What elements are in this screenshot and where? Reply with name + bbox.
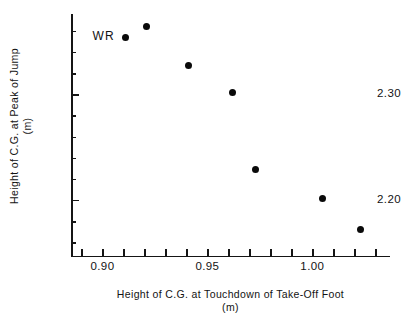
data-point-4	[252, 166, 259, 173]
x-axis-minor-tick	[144, 249, 145, 256]
y-axis-minor-tick	[71, 31, 76, 32]
y-axis-tick-label: 2.30	[355, 87, 401, 99]
y-axis-minor-tick	[71, 137, 76, 138]
y-axis-tick-label: 2.20	[355, 193, 401, 205]
y-axis-major-tick	[71, 200, 79, 201]
x-axis-minor-tick	[228, 249, 229, 256]
point-annotation-wr: WR	[93, 29, 115, 43]
x-axis-minor-tick	[249, 249, 250, 256]
y-axis-title: Height of C.G. at Peak of Jump (m)	[8, 1, 34, 251]
x-axis-major-tick	[102, 249, 103, 256]
x-axis-minor-tick	[270, 249, 271, 256]
x-axis-minor-tick	[354, 249, 355, 256]
x-axis-minor-tick	[333, 249, 334, 256]
data-point-6	[357, 226, 364, 233]
x-axis-minor-tick	[291, 249, 292, 256]
y-axis-minor-tick	[71, 73, 76, 74]
y-axis-minor-tick	[71, 242, 76, 243]
data-point-5	[319, 195, 326, 202]
x-axis-minor-tick	[81, 249, 82, 256]
y-axis-title-text: Height of C.G. at Peak of Jump	[8, 48, 20, 204]
data-point-1	[143, 23, 150, 30]
data-point-0	[122, 34, 129, 41]
scatter-plot-figure: 2.302.200.900.951.00WR Height of C.G. at…	[0, 0, 401, 325]
x-axis-tick-label: 0.90	[72, 260, 132, 272]
y-axis-major-tick	[71, 94, 79, 95]
x-axis-tick-label: 0.95	[177, 260, 237, 272]
x-axis-title: Height of C.G. at Touchdown of Take-Off …	[71, 288, 390, 314]
x-axis-major-tick	[207, 249, 208, 256]
x-axis-minor-tick	[123, 249, 124, 256]
y-axis-minor-tick	[71, 179, 76, 180]
data-point-3	[229, 89, 236, 96]
x-axis-minor-tick	[165, 249, 166, 256]
x-axis-tick-label: 1.00	[282, 260, 342, 272]
y-axis-unit: (m)	[21, 1, 34, 251]
data-point-2	[185, 62, 192, 69]
y-axis-minor-tick	[71, 115, 76, 116]
x-axis-line	[71, 256, 390, 258]
x-axis-minor-tick	[186, 249, 187, 256]
x-axis-major-tick	[312, 249, 313, 256]
y-axis-minor-tick	[71, 221, 76, 222]
x-axis-minor-tick	[375, 249, 376, 256]
x-axis-unit: (m)	[71, 301, 390, 314]
x-axis-title-text: Height of C.G. at Touchdown of Take-Off …	[117, 288, 344, 300]
y-axis-minor-tick	[71, 52, 76, 53]
y-axis-minor-tick	[71, 158, 76, 159]
